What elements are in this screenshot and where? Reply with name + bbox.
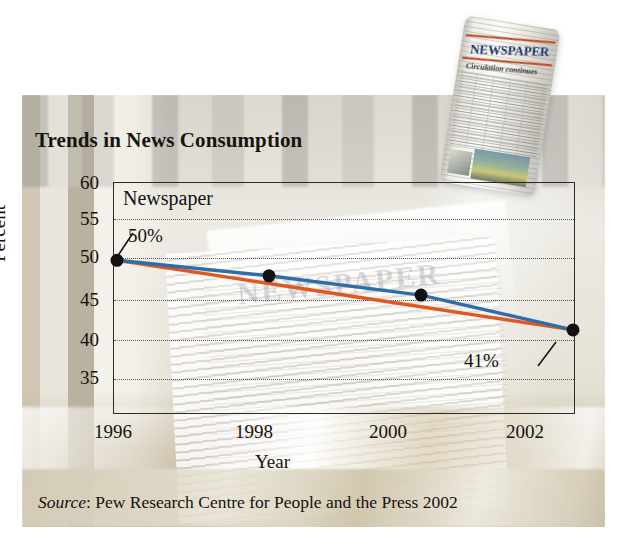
data-point-marker (263, 269, 276, 282)
y-tick-label: 45 (53, 289, 99, 311)
callout-label-41-percent: 41% (464, 350, 499, 372)
y-tick-label: 55 (53, 208, 99, 230)
chart-title: Trends in News Consumption (35, 128, 302, 153)
y-tick-label: 40 (53, 329, 99, 351)
x-axis-label: Year (255, 451, 290, 473)
plot-area: Newspaper 50% 41% (113, 182, 575, 414)
data-point-marker (567, 323, 580, 336)
newspaper-photo-inset-left (447, 149, 472, 176)
series-svg (114, 183, 576, 415)
source-keyword: Source (38, 492, 86, 512)
y-tick-label: 35 (53, 367, 99, 389)
source-note: Source: Pew Research Centre for People a… (38, 492, 458, 513)
y-axis-label: Percent (0, 205, 10, 262)
callout-leader-41 (538, 342, 556, 366)
y-tick-label: 50 (53, 246, 99, 268)
data-point-marker (415, 289, 428, 302)
x-tick-label: 2000 (348, 421, 428, 443)
callout-label-50-percent: 50% (128, 225, 163, 247)
y-tick-label: 60 (53, 172, 99, 194)
newspaper-columns (449, 71, 547, 158)
source-body: : Pew Research Centre for People and the… (86, 492, 458, 512)
figure-container: NEWSPAPER NEWSPAPER Circulation continue… (0, 0, 627, 554)
x-tick-label: 1998 (214, 421, 294, 443)
series-label-newspaper: Newspaper (123, 187, 213, 210)
x-tick-label: 1996 (73, 421, 153, 443)
x-tick-label: 2002 (485, 421, 565, 443)
trend-line-orange (117, 260, 573, 330)
